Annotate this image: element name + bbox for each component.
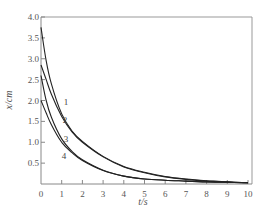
y-tick-label: 3.5 <box>28 33 40 43</box>
y-tick-label: 1.5 <box>28 116 40 126</box>
x-tick-label: 2 <box>80 189 85 199</box>
x-tick-label: 0 <box>39 189 44 199</box>
y-tick-label: 3.0 <box>28 54 40 64</box>
curve-label-4: 4 <box>62 151 67 161</box>
x-tick-label: 9 <box>225 189 230 199</box>
decay-chart: 0123456789100.51.01.52.02.53.03.54.0 123… <box>0 0 264 217</box>
x-tick-label: 6 <box>163 189 168 199</box>
x-tick-label: 10 <box>244 189 254 199</box>
y-tick-label: 4.0 <box>28 12 40 22</box>
x-axis-label: t/s <box>138 196 148 207</box>
x-tick-label: 4 <box>122 189 127 199</box>
curve-2 <box>41 65 248 183</box>
curve-labels: 1234 <box>62 97 69 161</box>
curve-1 <box>41 27 248 182</box>
y-tick-label: 2.0 <box>28 96 40 106</box>
plot-frame <box>41 17 252 184</box>
y-tick-label: 2.5 <box>28 75 40 85</box>
x-tick-label: 7 <box>184 189 189 199</box>
x-tick-label: 3 <box>101 189 106 199</box>
curve-label-1: 1 <box>64 97 69 107</box>
x-tick-label: 8 <box>204 189 209 199</box>
curve-3 <box>41 76 248 183</box>
x-tick-label: 1 <box>59 189 64 199</box>
y-tick-label: 1.0 <box>28 137 40 147</box>
curve-label-3: 3 <box>64 134 69 144</box>
curve-4 <box>41 101 248 183</box>
plot-border <box>41 17 252 184</box>
curve-label-2: 2 <box>63 115 68 125</box>
data-curves <box>41 27 248 182</box>
y-tick-label: 0.5 <box>28 158 40 168</box>
y-axis-label: x/cm <box>3 91 14 111</box>
